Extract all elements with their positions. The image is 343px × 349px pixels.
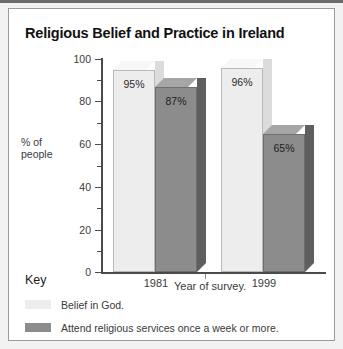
y-tick-100 — [95, 59, 101, 60]
bar-1999-attend-services[interactable]: 65% — [263, 125, 305, 272]
bar-1981-attend-services[interactable]: 87% — [155, 78, 197, 272]
y-tick-40 — [95, 187, 101, 188]
legend-label: Attend religious services once a week or… — [61, 322, 279, 334]
bar-1981-belief-in-god[interactable]: 95% — [113, 61, 155, 272]
y-tick-labels: 100 80 60 40 20 0 — [61, 9, 91, 341]
y-tick-20 — [95, 230, 101, 231]
bar-top-face — [113, 61, 155, 70]
y-tick-0 — [95, 272, 101, 273]
bar-top-face — [263, 125, 305, 134]
chart-frame: Religious Belief and Practice in Ireland… — [8, 8, 335, 341]
y-tick-label-100: 100 — [65, 53, 91, 65]
y-tick-label-40: 40 — [65, 181, 91, 193]
bar-front-face — [113, 70, 155, 272]
x-axis-group-separator-tick — [205, 274, 206, 279]
legend-swatch-dark — [25, 323, 51, 332]
y-tick-10 — [97, 251, 101, 252]
legend-label: Belief in God. — [61, 299, 124, 311]
bar-value-label: 65% — [263, 142, 305, 154]
bar-front-face — [221, 68, 263, 272]
y-tick-90 — [97, 80, 101, 81]
plot-area: 100 80 60 40 20 0 % of people 95% — [9, 9, 335, 341]
x-axis-line — [101, 272, 326, 274]
bar-top-face — [155, 78, 197, 87]
top-rule — [0, 0, 343, 3]
y-tick-label-0: 0 — [65, 266, 91, 278]
bar-top-face — [221, 59, 263, 68]
y-axis-title-line1: % of — [21, 136, 73, 148]
y-tick-70 — [97, 123, 101, 124]
y-axis-line — [101, 58, 103, 273]
y-tick-60 — [95, 144, 101, 145]
y-axis-title: % of people — [21, 136, 73, 160]
bar-value-label: 96% — [221, 76, 263, 88]
bar-side-face — [305, 125, 314, 272]
x-axis-title: Year of survey. — [174, 280, 246, 292]
bar-1999-belief-in-god[interactable]: 96% — [221, 59, 263, 272]
y-tick-label-20: 20 — [65, 224, 91, 236]
y-tick-30 — [97, 208, 101, 209]
figure-container: Religious Belief and Practice in Ireland… — [0, 0, 343, 349]
bar-front-face — [155, 87, 197, 272]
y-tick-label-80: 80 — [65, 95, 91, 107]
bar-front-face — [263, 134, 305, 272]
y-axis-title-line2: people — [21, 148, 73, 160]
x-category-label-1981: 1981 — [136, 277, 176, 289]
x-category-label-1999: 1999 — [244, 277, 284, 289]
bar-value-label: 87% — [155, 95, 197, 107]
y-tick-80 — [95, 101, 101, 102]
y-tick-50 — [97, 166, 101, 167]
bar-value-label: 95% — [113, 78, 155, 90]
bar-side-face — [197, 78, 206, 272]
legend-heading: Key — [25, 273, 47, 287]
legend-swatch-light — [25, 300, 51, 309]
